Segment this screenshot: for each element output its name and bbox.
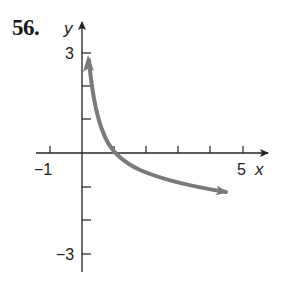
x-min-label: −1 [34, 161, 52, 178]
x-ticks [50, 146, 243, 153]
y-max-label: 3 [65, 45, 74, 62]
y-min-label: −3 [56, 246, 74, 263]
curve [89, 60, 226, 192]
x-axis-label: x [254, 160, 264, 179]
x-max-label: 5 [237, 161, 246, 178]
graph: −1 5 x y 3 −3 [0, 0, 281, 287]
y-axis-label: y [63, 19, 74, 38]
